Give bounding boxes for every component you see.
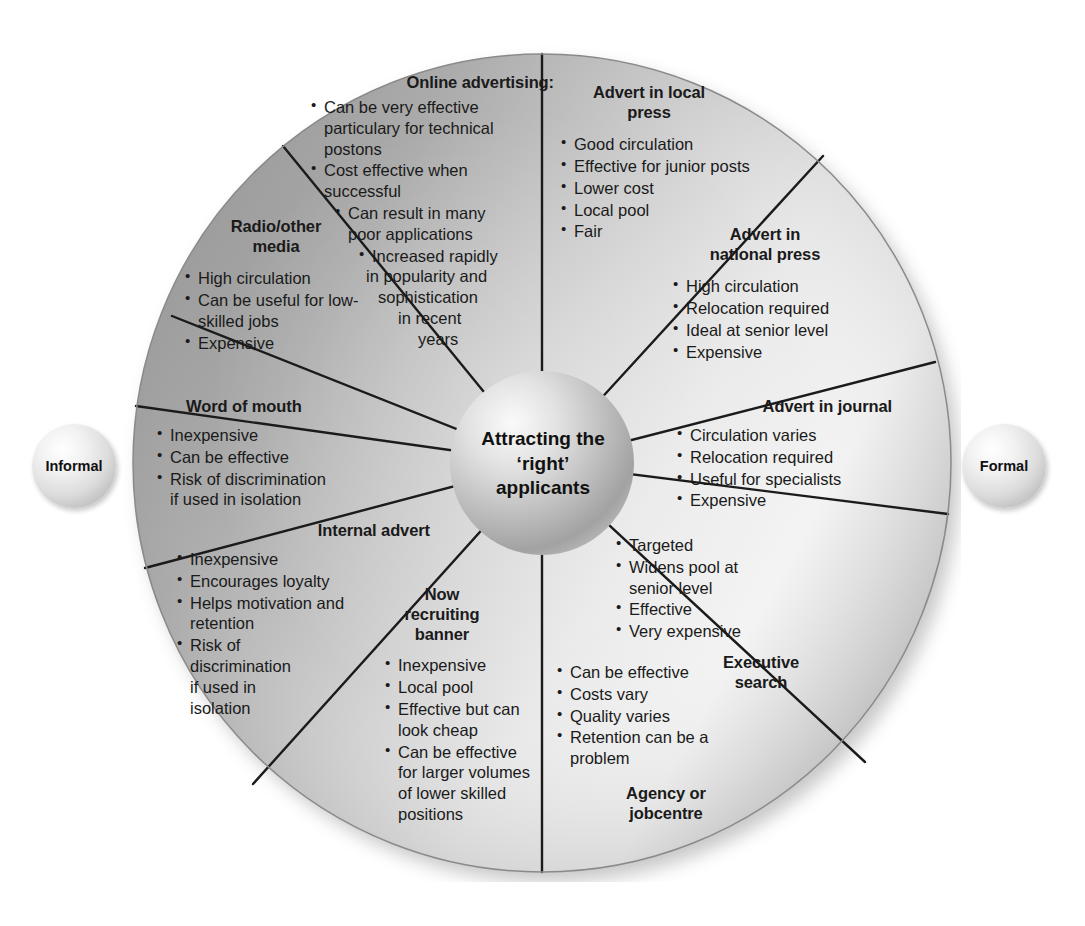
segment-internal-advert[interactable]: Internal advert Inexpensive Encourages l… [148, 520, 438, 719]
segment-title-radio-other-media: Radio/other media [184, 216, 368, 256]
hub-label: Attracting the ‘right’ applicants [449, 404, 637, 524]
list-item: High circulation [672, 276, 892, 297]
segment-advert-in-national-press[interactable]: Advert in national press High circulatio… [672, 224, 892, 363]
segment-title-agency-or-jobcentre: Agency or jobcentre [570, 783, 762, 823]
diagram-canvas: Online advertising: Can be very effectiv… [0, 0, 1085, 926]
list-item: Local pool [560, 200, 800, 221]
segment-bullets-online-advertising: Can be very effective particulary for te… [310, 97, 554, 202]
axis-label-informal: Informal [32, 424, 116, 508]
segment-bullets-agency-or-jobcentre: Can be effective Costs vary Quality vari… [556, 662, 806, 769]
list-item: Effective for junior posts [560, 156, 800, 177]
segment-bullets-word-of-mouth: Inexpensive Can be effective Risk of dis… [156, 425, 418, 510]
segment-bullets-radio-other-media: High circulation Can be useful for low- … [184, 268, 420, 353]
list-item: Expensive [676, 490, 900, 511]
list-item: Helps motivation and retention [176, 593, 438, 635]
segment-radio-other-media[interactable]: Radio/other media High circulation Can b… [170, 216, 420, 354]
axis-label-informal-text: Informal [45, 458, 102, 474]
segment-title-advert-in-national-press: Advert in national press [672, 224, 858, 264]
list-item: Ideal at senior level [672, 320, 892, 341]
segment-title-online-advertising: Online advertising: [310, 72, 554, 92]
segment-title-advert-in-journal: Advert in journal [640, 396, 892, 416]
list-item: Retention can be a problem [556, 727, 806, 769]
list-item: Very expensive [615, 621, 885, 642]
list-item: Risk of discrimination if used in isolat… [156, 469, 418, 511]
axis-label-formal-text: Formal [980, 458, 1028, 474]
list-item: Cost effective when successful [310, 160, 554, 202]
segment-title-word-of-mouth: Word of mouth [186, 396, 418, 416]
list-item: Circulation varies [676, 425, 900, 446]
list-item: Expensive [184, 333, 420, 354]
list-item: Expensive [672, 342, 892, 363]
segment-bullets-advert-in-national-press: High circulation Relocation required Ide… [672, 276, 892, 362]
list-item: Relocation required [672, 298, 892, 319]
list-item: Relocation required [676, 447, 900, 468]
list-item: Costs vary [556, 684, 806, 705]
segment-title-internal-advert: Internal advert [148, 520, 430, 540]
segment-title-advert-in-local-press: Advert in local press [560, 82, 738, 122]
segment-advert-in-local-press[interactable]: Advert in local press Good circulation E… [560, 82, 800, 243]
list-item: Can be effective [556, 662, 806, 683]
list-item: High circulation [184, 268, 420, 289]
list-item: Useful for specialists [676, 469, 900, 490]
list-item: Widens pool at senior level [615, 557, 885, 599]
segment-word-of-mouth[interactable]: Word of mouth Inexpensive Can be effecti… [156, 396, 418, 511]
list-item: Can be effective for larger volumes of l… [384, 742, 578, 825]
axis-label-formal: Formal [962, 424, 1046, 508]
list-item: Encourages loyalty [176, 571, 438, 592]
segment-agency-or-jobcentre[interactable]: Can be effective Costs vary Quality vari… [556, 662, 806, 823]
list-item: Quality varies [556, 706, 806, 727]
list-item: Targeted [615, 535, 885, 556]
list-item: Lower cost [560, 178, 800, 199]
list-item: Inexpensive [176, 549, 438, 570]
list-item: Effective [615, 599, 885, 620]
list-item: Can be useful for low- skilled jobs [184, 290, 420, 332]
segment-advert-in-journal[interactable]: Advert in journal Circulation varies Rel… [640, 396, 900, 512]
segment-bullets-advert-in-journal: Circulation varies Relocation required U… [676, 425, 900, 511]
list-item: Can be effective [156, 447, 418, 468]
list-item: Good circulation [560, 134, 800, 155]
segment-bullets-executive-search: Targeted Widens pool at senior level Eff… [615, 535, 885, 642]
list-item: Can be very effective particulary for te… [310, 97, 554, 159]
list-item: Risk of discrimination if used in isolat… [176, 635, 438, 718]
segment-bullets-internal-advert: Inexpensive Encourages loyalty Helps mot… [176, 549, 438, 718]
list-item: Inexpensive [156, 425, 418, 446]
